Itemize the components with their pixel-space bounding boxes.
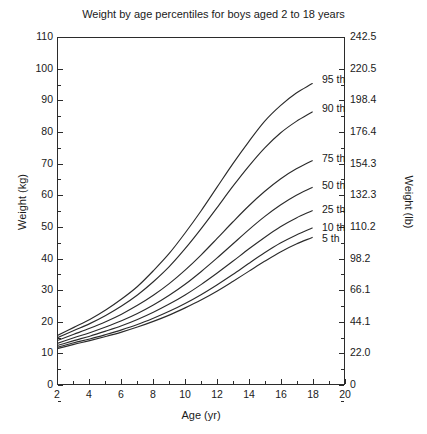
y-tick-right (339, 385, 344, 386)
y-tick-label: 80 (13, 125, 53, 137)
y-tick-right (339, 100, 344, 101)
y-tick-label-right: 198.4 (350, 93, 376, 105)
y-tick (58, 322, 63, 323)
y-tick-label-right: 98.2 (350, 252, 370, 264)
x-tick (313, 379, 314, 384)
y-tick (58, 132, 63, 133)
y-tick-label-right: 66.1 (350, 283, 370, 295)
percentile-curve (58, 187, 312, 343)
y-tick-minor (58, 369, 61, 370)
x-axis-title: Age (yr) (57, 409, 345, 421)
x-tick-label: 18 (298, 388, 328, 400)
y-tick-label-right: 110.2 (350, 220, 376, 232)
y-tick (58, 353, 63, 354)
series-label: 90 th (322, 102, 345, 114)
x-tick-label: 4 (74, 388, 104, 400)
y-tick-minor (58, 85, 61, 86)
y-tick-right (339, 37, 344, 38)
y-tick-minor (58, 211, 61, 212)
y-tick-label-right: 154.3 (350, 157, 376, 169)
series-label: 25 th (322, 203, 345, 215)
y-tick-minor (58, 179, 61, 180)
x-tick-label: 14 (234, 388, 264, 400)
y-tick-label: 90 (13, 93, 53, 105)
percentile-curve (58, 237, 312, 348)
x-tick-label: 16 (266, 388, 296, 400)
series-label: 5 th (322, 232, 340, 244)
x-tick-minor (297, 381, 298, 384)
y-tick (58, 259, 63, 260)
y-tick-label-right: 176.4 (350, 125, 376, 137)
x-tick-minor (265, 381, 266, 384)
y-tick (58, 37, 63, 38)
y-tick-right (339, 69, 344, 70)
x-tick-label: 20 (330, 388, 360, 400)
y-tick-right (339, 322, 344, 323)
y-tick-label-right: 22.0 (350, 346, 370, 358)
y-tick-minor (58, 148, 61, 149)
y-tick-minor (58, 274, 61, 275)
y-tick-label: 10 (13, 346, 53, 358)
x-tick-minor (201, 381, 202, 384)
y-tick-right (339, 290, 344, 291)
x-tick-label: 12 (202, 388, 232, 400)
x-tick (281, 379, 282, 384)
x-tick-label: 2 (42, 388, 72, 400)
x-tick (249, 379, 250, 384)
y-tick (58, 164, 63, 165)
percentile-curves (58, 38, 344, 384)
x-tick-minor (105, 381, 106, 384)
y-tick-label-right: 242.5 (350, 30, 376, 42)
y-tick-label-right: 132.3 (350, 188, 376, 200)
series-label: 95 th (322, 73, 345, 85)
x-tick-minor (169, 381, 170, 384)
y-axis-title-left: Weight (kg) (16, 142, 28, 262)
y-tick-label-right: 220.5 (350, 62, 376, 74)
x-tick (121, 379, 122, 384)
plot-area (57, 37, 345, 385)
y-tick-label: 100 (13, 62, 53, 74)
x-tick-minor (73, 381, 74, 384)
percentile-curve (58, 228, 312, 347)
y-tick-right-minor (341, 116, 344, 117)
series-label: 75 th (322, 152, 345, 164)
x-tick-minor (329, 381, 330, 384)
y-tick-right-minor (341, 401, 344, 402)
y-tick-label: 110 (13, 30, 53, 42)
y-tick-right-minor (341, 338, 344, 339)
y-axis-title-right: Weight (lb) (403, 142, 415, 262)
chart-page: Weight by age percentiles for boys aged … (0, 0, 427, 434)
y-tick (58, 69, 63, 70)
y-tick-minor (58, 243, 61, 244)
y-tick (58, 290, 63, 291)
y-tick (58, 227, 63, 228)
x-tick-label: 6 (106, 388, 136, 400)
y-tick-right-minor (341, 243, 344, 244)
y-tick (58, 195, 63, 196)
y-tick-right (339, 132, 344, 133)
percentile-curve (58, 211, 312, 346)
y-tick (58, 385, 63, 386)
y-tick-minor (58, 116, 61, 117)
y-tick-right (339, 195, 344, 196)
y-tick-right-minor (341, 369, 344, 370)
percentile-curve (58, 161, 312, 341)
x-tick-minor (233, 381, 234, 384)
x-tick (153, 379, 154, 384)
y-tick (58, 100, 63, 101)
x-tick-label: 8 (138, 388, 168, 400)
y-tick-right (339, 259, 344, 260)
y-tick-right-minor (341, 148, 344, 149)
y-tick-label-right: 44.1 (350, 315, 370, 327)
y-tick-minor (58, 306, 61, 307)
x-tick (185, 379, 186, 384)
x-tick (217, 379, 218, 384)
x-tick-label: 10 (170, 388, 200, 400)
y-tick-minor (58, 338, 61, 339)
y-tick-label: 20 (13, 315, 53, 327)
x-tick (89, 379, 90, 384)
chart-title: Weight by age percentiles for boys aged … (0, 8, 427, 20)
y-tick-right-minor (341, 306, 344, 307)
x-tick-minor (137, 381, 138, 384)
series-label: 50 th (322, 179, 345, 191)
